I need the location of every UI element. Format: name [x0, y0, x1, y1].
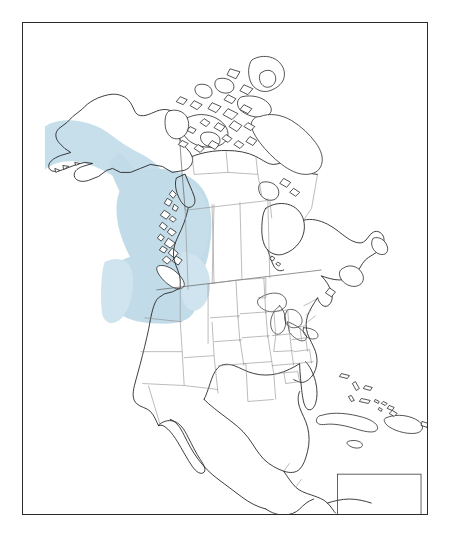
range-map-figure: North America [0, 0, 450, 537]
caribbean-islands [316, 374, 427, 449]
inset-clip-box [337, 474, 421, 514]
species-range-shading [45, 120, 211, 324]
map-frame: North America [22, 22, 428, 515]
north-america-map [23, 23, 427, 514]
